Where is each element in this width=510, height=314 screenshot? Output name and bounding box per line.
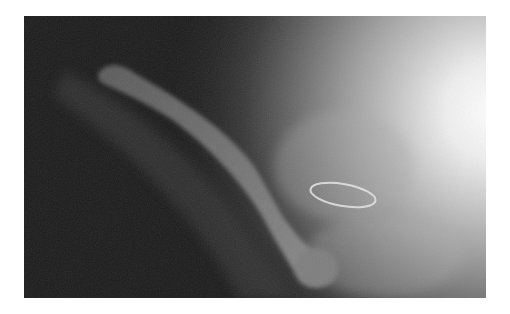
- xray-image: [24, 16, 486, 298]
- xray-canvas: [24, 16, 486, 298]
- film-grain: [24, 16, 486, 298]
